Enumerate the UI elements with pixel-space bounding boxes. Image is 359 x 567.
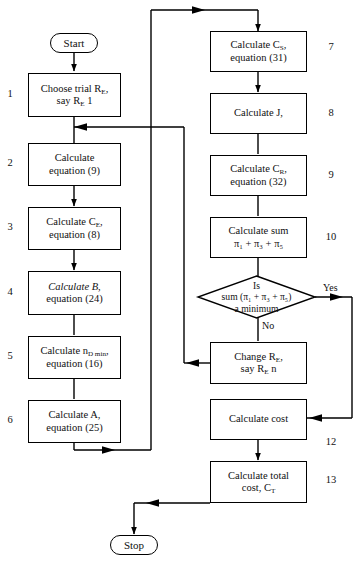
step-number-1: 1 [2,88,18,99]
process-box-7: Calculate CS, equation (31) [210,31,307,72]
decision-line2: sum (π₁ + π₃ + π₅) [222,291,292,302]
step-number-4: 4 [2,286,18,297]
step-number-8: 8 [322,107,340,118]
step-number-5: 5 [2,350,18,361]
process-change-re-line2: say RE n [234,363,283,375]
step-number-3: 3 [2,221,18,232]
process-box-3: Calculate CE, equation (8) [28,207,121,250]
process-box-9-line1: Calculate CR, [230,163,287,175]
step-number-6: 6 [2,414,18,425]
process-box-10-line1: Calculate sum [229,225,289,237]
process-box-1: Choose trial RE, say RE 1 [28,73,121,117]
step-number-2: 2 [2,157,18,168]
process-box-3-line2: equation (8) [46,229,102,241]
terminal-stop: Stop [110,535,158,555]
edge-label-no: No [261,320,275,331]
terminal-start: Start [50,33,98,53]
process-box-5: Calculate nD min, equation (16) [28,336,121,379]
process-box-2-line2: equation (9) [49,165,100,177]
process-box-change-re: Change RE, say RE n [210,342,307,384]
process-box-8-line1: Calculate J, [234,107,283,119]
process-box-8: Calculate J, [210,93,307,134]
process-box-10: Calculate sum π₁ + π₃ + π₅ [210,217,307,258]
process-box-12: Calculate cost [210,399,307,440]
process-box-3-line1: Calculate CE, [46,216,102,228]
process-box-13-line2: cost, CT [228,482,289,494]
process-change-re-line1: Change RE, [234,351,283,363]
process-box-13: Calculate total cost, CT [210,461,307,503]
step-number-12: 12 [320,436,342,447]
edge-label-yes: Yes [322,282,339,293]
terminal-stop-label: Stop [124,539,144,552]
process-box-2: Calculate equation (9) [28,143,121,186]
decision-line1: Is [222,280,292,291]
process-box-10-line2: π₁ + π₃ + π₅ [229,238,289,250]
process-box-7-line1: Calculate CS, [230,39,286,51]
process-box-7-line2: equation (31) [230,52,286,64]
process-box-5-line1: Calculate nD min, [40,345,108,357]
process-box-6: Calculate A, equation (25) [28,400,121,443]
process-box-6-line2: equation (25) [46,422,102,434]
process-box-13-line1: Calculate total [228,470,289,482]
process-box-4: Calculate B, equation (24) [28,271,121,315]
step-number-10: 10 [320,231,342,242]
step-number-7: 7 [322,41,340,52]
decision-line3: a minimum [222,303,292,314]
process-box-12-line1: Calculate cost [229,413,288,425]
process-box-9: Calculate CR, equation (32) [210,155,307,196]
process-box-1-line2: say RE 1 [41,95,109,107]
step-number-13: 13 [320,474,342,485]
process-box-4-line1: Calculate B, [46,281,102,293]
process-box-9-line2: equation (32) [230,176,287,188]
step-number-9: 9 [322,169,340,180]
process-box-2-line1: Calculate [49,152,100,164]
flowchart-canvas: Start Choose trial RE, say RE 1 1 Calcul… [0,0,359,567]
process-box-4-line2: equation (24) [46,293,102,305]
process-box-6-line1: Calculate A, [46,409,102,421]
process-box-1-line1: Choose trial RE, [41,83,109,95]
terminal-start-label: Start [64,37,85,50]
process-box-5-line2: equation (16) [40,358,108,370]
decision-diamond-minimum: Is sum (π₁ + π₃ + π₅) a minimum [198,276,315,318]
